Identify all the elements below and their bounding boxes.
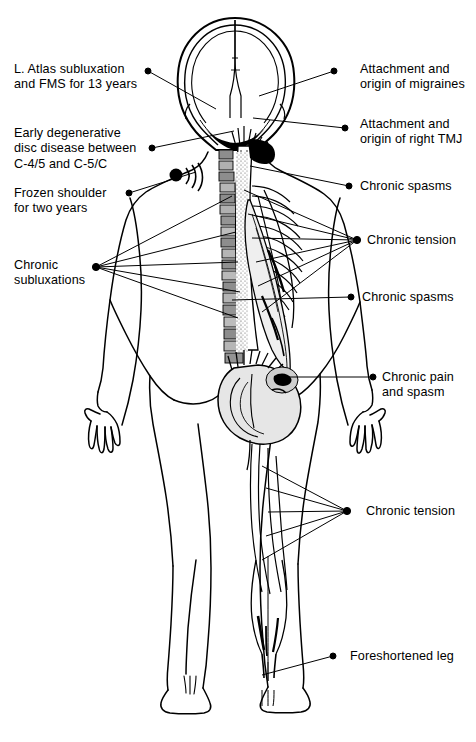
right-leg-muscles — [251, 444, 288, 706]
leader-line-chronic-subluxations — [96, 196, 232, 267]
annotation-label-foreshortened-leg: Foreshortened leg — [350, 649, 454, 664]
annotation-label-disc-disease: Early degenerative disc disease between … — [14, 126, 136, 172]
skull — [178, 18, 295, 150]
annotation-label-atlas-subluxation: L. Atlas subluxation and FMS for 13 year… — [14, 62, 137, 93]
leader-dot-chronic-subluxations — [92, 263, 99, 270]
annotation-label-chronic-tension-lower: Chronic tension — [366, 504, 455, 519]
annotation-label-chronic-tension-upper: Chronic tension — [367, 233, 456, 248]
leader-dot-chronic-pain-spasm — [370, 374, 376, 380]
leader-dot-chronic-tension-lower — [343, 507, 350, 514]
annotation-label-right-tmj: Attachment and origin of right TMJ — [360, 117, 462, 148]
leader-line-chronic-tension-lower — [262, 511, 347, 560]
annotation-label-frozen-shoulder: Frozen shoulder for two years — [14, 186, 107, 217]
leader-dot-chronic-tension-upper — [353, 236, 360, 243]
leader-line-chronic-subluxations — [96, 267, 240, 292]
annotation-label-chronic-spasms-lower: Chronic spasms — [362, 290, 454, 305]
leader-line-chronic-subluxations — [96, 262, 238, 267]
leader-dot-disc-disease — [149, 145, 155, 151]
leader-line-chronic-spasms-upper — [250, 166, 349, 186]
annotation-label-chronic-spasms-upper: Chronic spasms — [360, 179, 452, 194]
leader-line-frozen-shoulder — [129, 172, 196, 193]
leader-dot-atlas-subluxation — [145, 68, 151, 74]
leader-dot-chronic-spasms-upper — [346, 183, 352, 189]
leader-line-foreshortened-leg — [262, 656, 333, 675]
annotation-label-chronic-subluxations: Chronic subluxations — [14, 258, 85, 289]
leader-line-chronic-tension-lower — [266, 488, 347, 511]
leader-line-chronic-tension-lower — [262, 466, 347, 511]
leader-dot-chronic-spasms-lower — [348, 294, 354, 300]
anatomical-figure-root: L. Atlas subluxation and FMS for 13 year… — [0, 0, 476, 742]
leader-dot-foreshortened-leg — [330, 653, 336, 659]
leader-line-chronic-subluxations — [96, 267, 238, 318]
annotation-label-chronic-pain-spasm: Chronic pain and spasm — [382, 370, 454, 401]
leader-line-chronic-tension-lower — [266, 511, 347, 536]
leader-dot-migraines — [331, 68, 337, 74]
leader-dot-frozen-shoulder — [126, 190, 132, 196]
leader-line-chronic-subluxations — [96, 232, 236, 267]
annotation-label-migraines: Attachment and origin of migraines — [360, 62, 465, 93]
leader-line-chronic-tension-upper — [252, 238, 357, 240]
leader-dot-right-tmj — [342, 125, 348, 131]
